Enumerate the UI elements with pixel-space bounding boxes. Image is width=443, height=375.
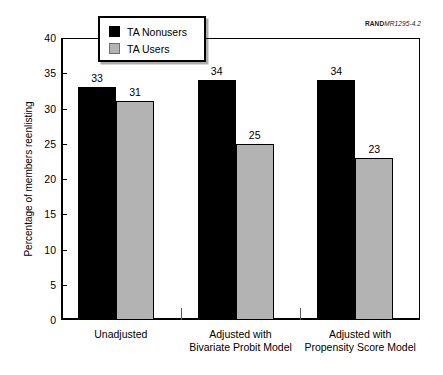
source-credit: RANDMR1295-4.2 [365, 20, 421, 27]
bar-users-0 [116, 101, 154, 320]
bar-nonusers-2 [317, 80, 355, 320]
y-axis-tick-label: 35 [30, 68, 56, 78]
bar-chart: RANDMR1295-4.2 Percentage of members ree… [0, 0, 443, 375]
y-axis-tick-label: 30 [30, 104, 56, 114]
y-axis-tick-mark [61, 285, 67, 286]
source-credit-prefix: RAND [365, 20, 384, 27]
y-axis-tick-mark [61, 250, 67, 251]
category-separator-tick [181, 308, 182, 320]
bar-value-label: 23 [355, 144, 393, 155]
source-credit-suffix: MR1295-4.2 [384, 20, 421, 27]
y-axis-tick-labels: 0510152025303540 [30, 0, 56, 375]
bar-users-2 [355, 158, 393, 320]
y-axis-tick-label: 0 [30, 315, 56, 325]
category-separator-tick [300, 308, 301, 320]
y-axis-tick-mark [61, 109, 67, 110]
bar-value-label: 34 [198, 66, 236, 77]
y-axis-tick-label: 40 [30, 33, 56, 43]
legend-swatch-icon-nonusers [109, 26, 120, 37]
y-axis-tick-mark [61, 179, 67, 180]
y-axis-tick-label: 15 [30, 209, 56, 219]
y-axis-tick-mark [61, 144, 67, 145]
bar-value-label: 31 [116, 87, 154, 98]
legend-item-nonusers: TA Nonusers [109, 23, 204, 40]
y-axis-tick-label: 10 [30, 245, 56, 255]
y-axis-tick-label: 5 [30, 280, 56, 290]
bar-nonusers-0 [78, 87, 116, 320]
y-axis-tick-label: 20 [30, 174, 56, 184]
y-axis-tick-label: 25 [30, 139, 56, 149]
legend-label-nonusers: TA Nonusers [127, 26, 187, 38]
legend: TA Nonusers TA Users [98, 16, 206, 62]
legend-item-users: TA Users [109, 40, 204, 57]
bar-value-label: 34 [317, 66, 355, 77]
bar-users-1 [236, 144, 274, 320]
bar-nonusers-1 [198, 80, 236, 320]
y-axis-tick-mark [61, 73, 67, 74]
legend-swatch-icon-users [109, 43, 120, 54]
y-axis-tick-mark [61, 214, 67, 215]
legend-label-users: TA Users [127, 43, 169, 55]
x-axis-category-label: Adjusted with Propensity Score Model [282, 328, 438, 354]
bar-value-label: 25 [236, 130, 274, 141]
bar-value-label: 33 [78, 73, 116, 84]
